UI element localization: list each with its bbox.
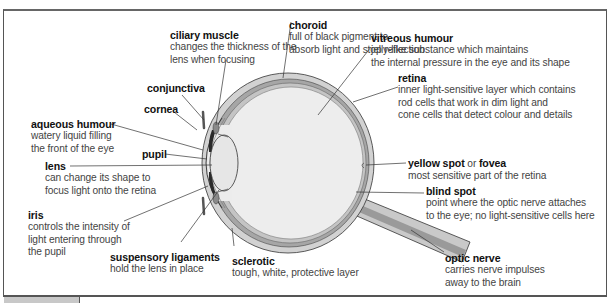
label-desc: the internal pressure in the eye and its… <box>371 57 570 69</box>
label-desc: carries nerve impulses <box>445 264 545 276</box>
label-conjunction: or <box>467 158 476 169</box>
label-title: ciliary muscle <box>170 29 296 41</box>
label-blind-spot: blind spot point where the optic nerve a… <box>426 185 595 222</box>
label-title: conjunctiva <box>147 82 205 94</box>
label-lens: lens can change its shape to focus light… <box>45 160 156 197</box>
label-desc: lens when focusing <box>170 54 296 66</box>
label-pupil: pupil <box>142 148 167 160</box>
label-desc: tough, white, protective layer <box>232 267 359 279</box>
label-yellow-spot-fovea: yellow spot or fovea most sensitive part… <box>408 157 546 183</box>
vitreous-humour-area <box>219 87 363 239</box>
label-sclerotic: sclerotic tough, white, protective layer <box>232 255 359 280</box>
label-desc: inner light-sensitive layer which contai… <box>398 84 576 96</box>
label-desc: cone cells that detect colour and detail… <box>398 109 576 121</box>
label-desc: can change its shape to <box>45 172 156 184</box>
label-title: vitreous humour <box>371 32 570 44</box>
label-desc: changes the thickness of the <box>170 41 296 53</box>
lens-shape <box>210 135 238 191</box>
label-title: suspensory ligaments <box>110 251 220 263</box>
label-title: sclerotic <box>232 255 359 267</box>
label-desc: focus light onto the retina <box>45 185 156 197</box>
label-title: cornea <box>144 103 178 115</box>
label-title: choroid <box>289 19 425 31</box>
label-desc: light entering through <box>28 234 130 246</box>
label-title: pupil <box>142 148 167 160</box>
label-cornea: cornea <box>144 103 178 115</box>
label-desc: the front of the eye <box>31 143 116 155</box>
label-conjunctiva: conjunctiva <box>147 82 205 94</box>
label-desc: jelly-like substance which maintains <box>371 44 570 56</box>
label-ciliary-muscle: ciliary muscle changes the thickness of … <box>170 29 296 66</box>
label-desc: most sensitive part of the retina <box>408 170 546 182</box>
label-title: optic nerve <box>445 252 545 264</box>
label-title: lens <box>45 160 156 172</box>
label-title: retina <box>398 72 576 84</box>
label-title: iris <box>28 209 130 221</box>
label-title-alt: fovea <box>479 157 506 169</box>
label-desc: controls the intensity of <box>28 221 130 233</box>
label-desc: watery liquid filling <box>31 130 116 142</box>
label-retina: retina inner light-sensitive layer which… <box>398 72 576 122</box>
label-suspensory-ligaments: suspensory ligaments hold the lens in pl… <box>110 251 220 276</box>
label-desc: point where the optic nerve attaches <box>426 197 595 209</box>
label-vitreous-humour: vitreous humour jelly-like substance whi… <box>371 32 570 69</box>
label-desc: rod cells that work in dim light and <box>398 97 576 109</box>
label-desc: to the eye; no light-sensitive cells her… <box>426 210 595 222</box>
label-desc: away to the brain <box>445 277 545 289</box>
label-optic-nerve: optic nerve carries nerve impulses away … <box>445 252 545 289</box>
label-title-line: yellow spot or fovea <box>408 157 546 170</box>
label-title: aqueous humour <box>31 118 116 130</box>
label-aqueous-humour: aqueous humour watery liquid filling the… <box>31 118 116 155</box>
label-desc: hold the lens in place <box>110 263 220 275</box>
label-title: blind spot <box>426 185 595 197</box>
label-title: yellow spot <box>408 157 465 169</box>
